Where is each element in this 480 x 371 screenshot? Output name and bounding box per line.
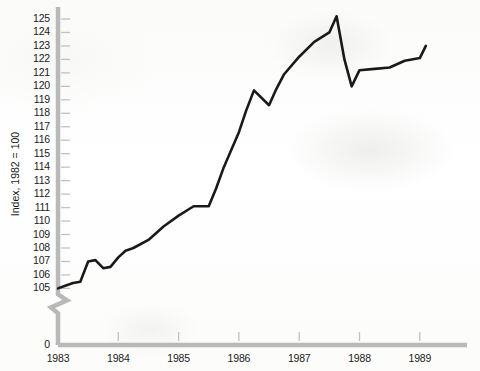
data-series-index: [58, 16, 426, 288]
y-axis-spine: [51, 7, 67, 345]
chart-container: Index, 1982 = 100 1251241231221211201191…: [0, 0, 480, 371]
plot-area: [0, 0, 480, 371]
y-tick-marks: [61, 19, 70, 288]
x-tick-marks: [118, 332, 420, 341]
